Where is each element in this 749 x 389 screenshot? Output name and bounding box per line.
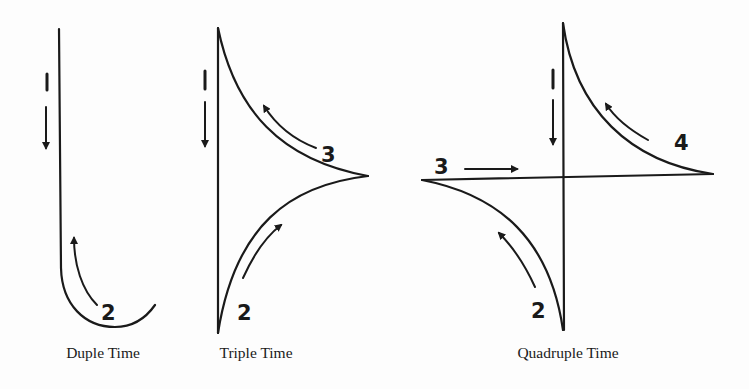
duple-beat-path: [59, 29, 155, 327]
quadruple-pattern: 3 4 2: [422, 23, 713, 330]
triple-beat2-label: 2: [237, 301, 252, 325]
triple-pattern: 3 2: [205, 28, 368, 333]
conducting-patterns-figure: 2 3 2 3 4 2 Dup: [0, 0, 749, 389]
triple-beat2-arrow: [243, 225, 281, 278]
duple-pattern: 2: [46, 29, 155, 327]
quadruple-time-caption: Quadruple Time: [517, 344, 618, 362]
quadruple-beat2-label: 2: [531, 299, 546, 323]
quadruple-beat3-label: 3: [434, 155, 449, 179]
quadruple-horizontal-line: [422, 174, 713, 180]
duple-beat2-label: 2: [101, 301, 116, 325]
triple-beat3-label: 3: [321, 143, 336, 167]
quadruple-beat4-label: 4: [674, 131, 689, 155]
quadruple-upper-right-curve: [563, 23, 713, 174]
triple-beat3-arrow: [264, 106, 316, 148]
duple-beat2-arrow: [74, 238, 97, 305]
conducting-patterns-svg: 2 3 2 3 4 2: [0, 0, 749, 389]
triple-upper-curve: [218, 28, 368, 176]
quadruple-beat4-arrow: [606, 104, 648, 140]
triple-time-caption: Triple Time: [219, 344, 292, 362]
duple-time-caption: Duple Time: [66, 344, 140, 362]
